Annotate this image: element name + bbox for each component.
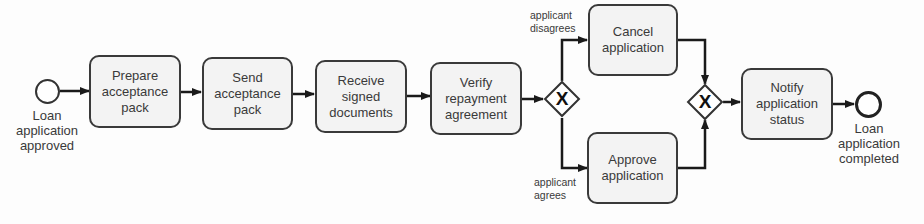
task-approve-application[interactable]: Approve application	[587, 132, 678, 204]
task-prepare-acceptance-pack[interactable]: Prepare acceptance pack	[89, 55, 181, 128]
label-line: agrees	[534, 189, 576, 202]
start-event-label: Loan application approved	[8, 108, 86, 153]
label-line: disagrees	[530, 22, 576, 35]
label-line: completed	[829, 151, 909, 166]
gateway-x-icon: X	[544, 81, 580, 117]
label-line: Loan	[829, 121, 909, 136]
label-line: applicant	[530, 9, 576, 22]
task-receive-signed-documents[interactable]: Receive signed documents	[315, 60, 407, 133]
label-line: applicant	[534, 176, 576, 189]
end-event[interactable]	[855, 91, 882, 118]
end-event-label: Loan application completed	[829, 121, 909, 166]
label-line: Loan	[8, 108, 86, 123]
task-notify-application-status[interactable]: Notify application status	[741, 68, 833, 140]
label-line: application	[8, 123, 86, 138]
flow-label-disagrees: applicant disagrees	[530, 9, 576, 35]
label-line: approved	[8, 138, 86, 153]
gateway-x-icon: X	[687, 84, 723, 120]
flow-label-agrees: applicant agrees	[534, 176, 576, 202]
task-cancel-application[interactable]: Cancel application	[588, 4, 678, 76]
task-verify-repayment-agreement[interactable]: Verify repayment agreement	[430, 62, 522, 135]
label-line: application	[829, 136, 909, 151]
task-send-acceptance-pack[interactable]: Send acceptance pack	[202, 57, 293, 130]
start-event[interactable]	[35, 79, 60, 104]
